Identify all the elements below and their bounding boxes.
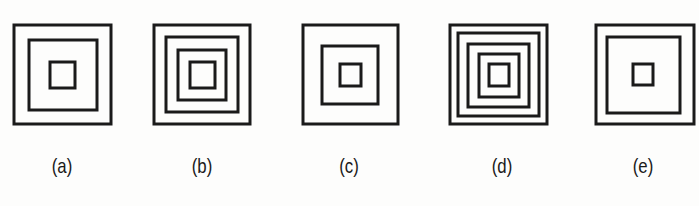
option-label-d: (d) (492, 154, 513, 178)
option-label-b: (b) (192, 154, 213, 178)
square-3 (633, 64, 653, 85)
square-1 (450, 25, 547, 124)
square-4 (190, 62, 215, 88)
square-2 (322, 46, 378, 104)
square-3 (50, 62, 75, 88)
option-label-e: (e) (633, 154, 654, 178)
square-1 (303, 25, 398, 124)
square-2 (29, 40, 97, 110)
square-1 (154, 25, 250, 124)
square-5 (489, 64, 509, 86)
option-label-c: (c) (339, 154, 359, 178)
square-2 (607, 37, 680, 113)
option-figure-a (14, 25, 111, 124)
option-label-a: (a) (52, 154, 73, 178)
option-figure-d (450, 25, 547, 124)
square-4 (479, 54, 519, 97)
option-figure-c (303, 25, 398, 124)
square-3 (178, 50, 226, 100)
option-figure-e (596, 25, 694, 124)
option-figure-b (154, 25, 250, 124)
square-3 (340, 64, 361, 86)
